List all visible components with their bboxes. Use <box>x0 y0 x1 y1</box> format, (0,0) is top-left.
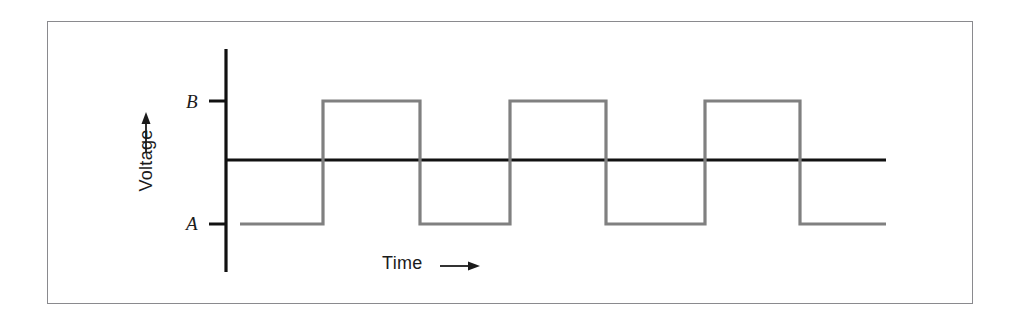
x-axis-title: Time <box>382 253 423 274</box>
y-tick-label-b: B <box>186 92 198 111</box>
y-tick-label-a: A <box>186 214 198 233</box>
square-waveform <box>240 101 886 224</box>
y-axis-title: Voltage <box>136 101 157 221</box>
time-right-arrow-icon <box>440 262 480 271</box>
square-wave-figure: B A Voltage Time <box>0 0 1015 323</box>
